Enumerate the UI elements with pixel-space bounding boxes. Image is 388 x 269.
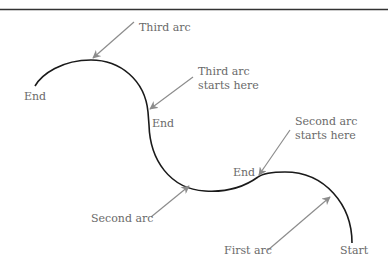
- start-label: Start: [340, 244, 368, 258]
- second-arc-starts-label: Second arc starts here: [295, 115, 357, 143]
- second-arc-text: Second arc: [91, 212, 153, 226]
- third-arc-starts-label: Third arc starts here: [198, 65, 259, 93]
- third-arc-arrow: [93, 22, 134, 58]
- second-arc-starts-line2: starts here: [295, 129, 357, 143]
- end-middle-label: End: [152, 117, 174, 131]
- third-arc-starts-arrow: [150, 77, 193, 109]
- first-arc-text: First arc: [224, 244, 272, 258]
- end-right-text: End: [233, 166, 255, 180]
- first-arc-curve: [258, 172, 352, 243]
- third-arc-starts-line2: starts here: [198, 79, 259, 93]
- first-arc-label: First arc: [224, 244, 272, 258]
- third-arc-curve: [35, 60, 148, 112]
- second-arc-starts-line1: Second arc: [295, 115, 357, 129]
- end-middle-text: End: [152, 117, 174, 131]
- second-arc-arrow: [151, 186, 189, 217]
- end-left-text: End: [24, 90, 46, 104]
- third-arc-starts-line1: Third arc: [198, 65, 259, 79]
- third-arc-label: Third arc: [139, 21, 191, 35]
- arc-path-diagram: End Third arc Third arc starts here End …: [0, 0, 388, 269]
- first-arc-arrow: [268, 197, 330, 250]
- start-text: Start: [340, 244, 368, 258]
- second-arc-starts-arrow: [259, 130, 290, 175]
- second-arc-label: Second arc: [91, 212, 153, 226]
- end-left-label: End: [24, 90, 46, 104]
- end-right-label: End: [233, 166, 255, 180]
- third-arc-text: Third arc: [139, 21, 191, 35]
